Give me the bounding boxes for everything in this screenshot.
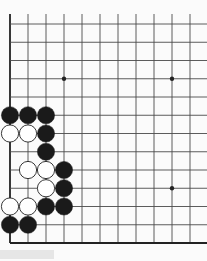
black-stone[interactable] [1, 107, 18, 124]
white-stone[interactable] [37, 161, 54, 178]
white-stone[interactable] [19, 125, 36, 142]
star-point [62, 77, 66, 81]
go-board[interactable] [0, 0, 207, 261]
white-stone[interactable] [1, 125, 18, 142]
black-stone[interactable] [55, 198, 72, 215]
black-stone[interactable] [1, 216, 18, 233]
white-stone[interactable] [19, 198, 36, 215]
star-point [170, 186, 174, 190]
white-stone[interactable] [19, 161, 36, 178]
black-stone[interactable] [37, 125, 54, 142]
black-stone[interactable] [37, 198, 54, 215]
black-stone[interactable] [37, 107, 54, 124]
black-stone[interactable] [19, 107, 36, 124]
black-stone[interactable] [55, 180, 72, 197]
black-stone[interactable] [37, 143, 54, 160]
white-stone[interactable] [37, 180, 54, 197]
star-point [170, 77, 174, 81]
black-stone[interactable] [19, 216, 36, 233]
caption-label [0, 250, 54, 259]
white-stone[interactable] [1, 198, 18, 215]
black-stone[interactable] [55, 161, 72, 178]
